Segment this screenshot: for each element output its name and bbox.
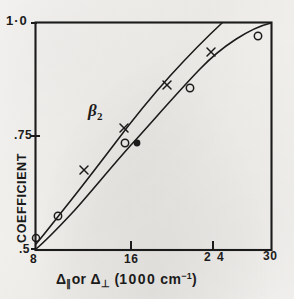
plot-frame: [36, 23, 272, 251]
x-axis-unit: cm: [160, 271, 181, 287]
data-point-circle: [121, 139, 128, 146]
x-axis-thousand: 1000: [119, 271, 156, 287]
data-point-cross: [207, 48, 215, 56]
ytick-label-1-0: 1·0: [6, 13, 28, 28]
x-axis-unit-exponent: −1: [181, 271, 192, 281]
x-axis-delta-parallel: Δ: [56, 271, 66, 287]
data-point-cross: [163, 81, 171, 89]
lower-curve-line: [36, 23, 271, 249]
beta-subscript: 2: [97, 110, 103, 122]
x-axis-perp-subscript: ⊥: [101, 278, 110, 289]
ytick-label-0-75: .75: [14, 128, 32, 142]
plot-canvas: [0, 0, 294, 299]
y-axis-title: COEFFICIENT: [15, 153, 29, 243]
x-axis-delta-perp: Δ: [91, 271, 101, 287]
xtick-label-30: 30: [263, 249, 277, 263]
ytick-label-0-5: .5: [19, 242, 30, 256]
x-axis-close-paren: ): [192, 271, 197, 287]
data-point-cross: [80, 166, 88, 174]
upper-curve-line: [36, 23, 222, 244]
figure-container: 1·0 .75 .5 8 16 2 4 30 COEFFICIENT Δ∥or …: [0, 0, 294, 299]
x-axis-title: Δ∥or Δ⊥ (1000 cm−1): [56, 271, 197, 289]
xtick-label-16: 16: [124, 252, 138, 266]
beta-2-annotation: β2: [88, 101, 103, 122]
data-point-circle: [254, 32, 261, 39]
xtick-label-8: 8: [30, 252, 37, 266]
x-axis-conjunction: or: [72, 271, 87, 287]
lower-curve-markers: [33, 32, 262, 241]
beta-symbol: β: [88, 101, 97, 120]
data-point-filled: [134, 140, 141, 147]
data-point-circle: [186, 84, 193, 91]
xtick-label-24: 2 4: [204, 250, 225, 264]
